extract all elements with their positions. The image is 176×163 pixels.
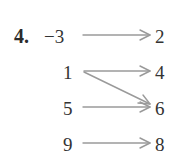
arrow-icon — [84, 66, 150, 76]
arrow-icon — [83, 30, 150, 40]
arrow-icon — [83, 138, 150, 148]
arrow-icon — [84, 72, 150, 104]
mapping-arrows — [0, 0, 176, 163]
